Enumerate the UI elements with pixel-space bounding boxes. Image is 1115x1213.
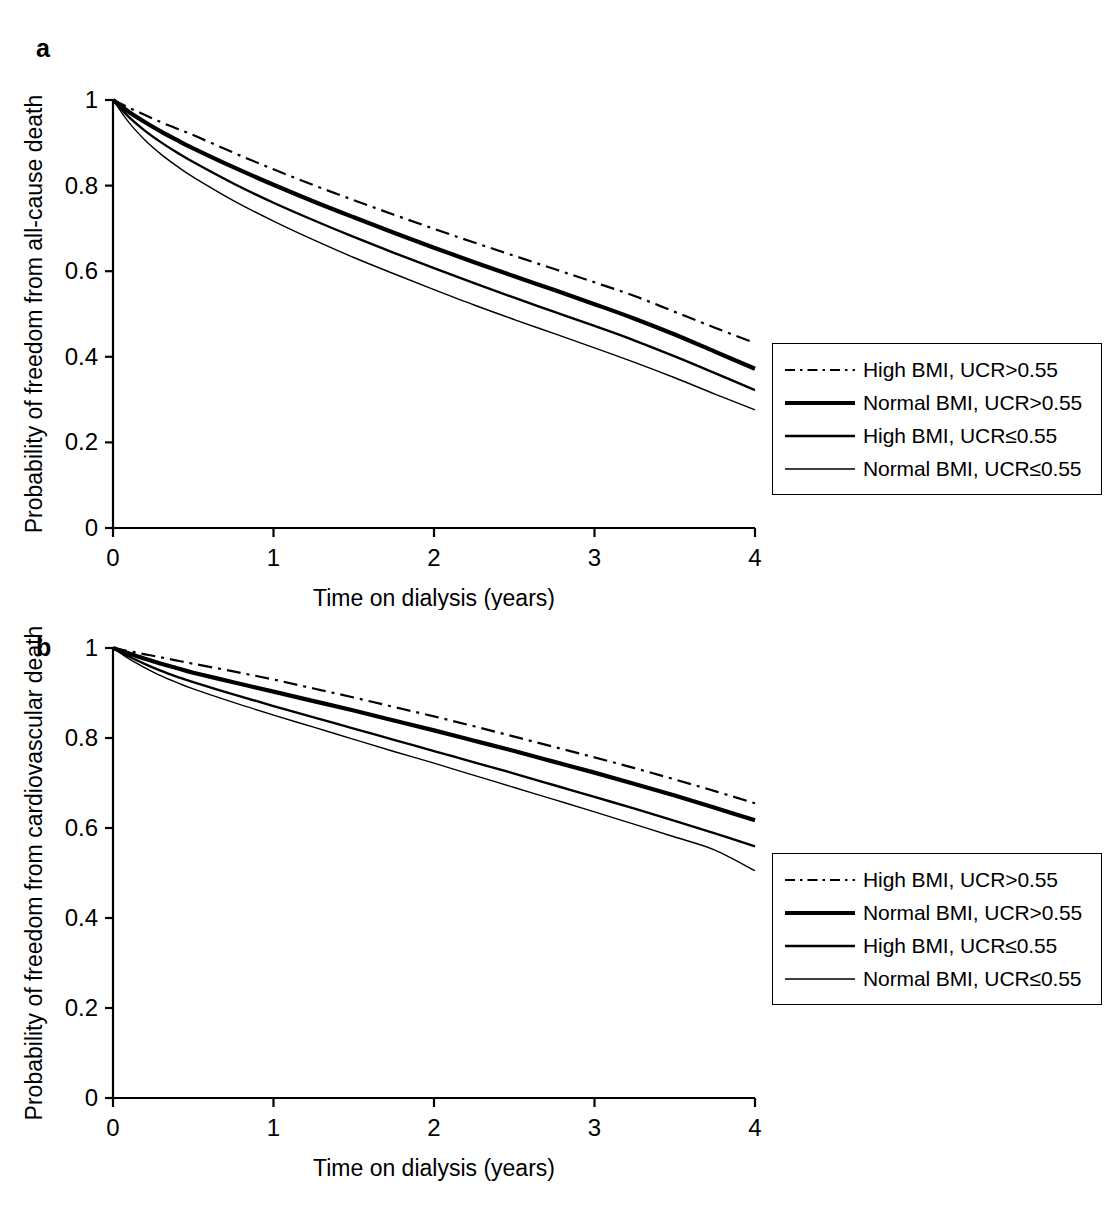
legend-row: High BMI, UCR≤0.55 [783,419,1089,452]
svg-text:0.6: 0.6 [65,257,98,284]
svg-text:0.4: 0.4 [65,343,98,370]
legend-line-swatch-icon [783,873,857,887]
legend-label: Normal BMI, UCR>0.55 [863,391,1082,415]
svg-text:1: 1 [85,634,98,661]
svg-text:Time on dialysis (years): Time on dialysis (years) [313,1155,555,1181]
curve-Normal BMI, UCR>0.55 [113,100,755,369]
curve-Normal BMI, UCR≤0.55 [113,648,755,871]
panel-a-legend: High BMI, UCR>0.55Normal BMI, UCR>0.55Hi… [772,343,1102,495]
legend-row: High BMI, UCR>0.55 [783,863,1089,896]
legend-label: Normal BMI, UCR≤0.55 [863,967,1081,991]
svg-text:0.4: 0.4 [65,904,98,931]
svg-text:3: 3 [588,544,601,571]
svg-text:Probability of freedom from ca: Probability of freedom from cardiovascul… [21,626,47,1121]
legend-row: High BMI, UCR≤0.55 [783,929,1089,962]
svg-text:Probability of freedom from al: Probability of freedom from all-cause de… [21,95,47,534]
legend-line-swatch-icon [783,939,857,953]
svg-text:1: 1 [267,1114,280,1141]
legend-row: Normal BMI, UCR≤0.55 [783,452,1089,485]
legend-row: Normal BMI, UCR≤0.55 [783,962,1089,995]
svg-text:0: 0 [106,544,119,571]
curve-Normal BMI, UCR>0.55 [113,648,755,820]
svg-text:1: 1 [85,86,98,113]
svg-text:4: 4 [748,1114,761,1141]
panel-a-plot: 00.20.40.60.8101234Time on dialysis (yea… [0,0,790,610]
legend-line-swatch-icon [783,363,857,377]
legend-label: Normal BMI, UCR>0.55 [863,901,1082,925]
legend-label: High BMI, UCR>0.55 [863,358,1058,382]
curve-Normal BMI, UCR≤0.55 [113,100,755,410]
svg-text:3: 3 [588,1114,601,1141]
legend-line-swatch-icon [783,462,857,476]
legend-line-swatch-icon [783,906,857,920]
svg-text:2: 2 [427,1114,440,1141]
legend-line-swatch-icon [783,429,857,443]
panel-b-legend: High BMI, UCR>0.55Normal BMI, UCR>0.55Hi… [772,853,1102,1005]
figure-root: a 00.20.40.60.8101234Time on dialysis (y… [0,0,1115,1213]
legend-label: High BMI, UCR≤0.55 [863,934,1057,958]
svg-text:0: 0 [106,1114,119,1141]
legend-label: High BMI, UCR>0.55 [863,868,1058,892]
curve-High BMI, UCR>0.55 [113,648,755,803]
panel-b-plot: 00.20.40.60.8101234Time on dialysis (yea… [0,603,790,1213]
panel-b: b 00.20.40.60.8101234Time on dialysis (y… [0,603,1115,1213]
svg-text:0: 0 [85,514,98,541]
svg-text:0.2: 0.2 [65,994,98,1021]
legend-line-swatch-icon [783,972,857,986]
panel-a: a 00.20.40.60.8101234Time on dialysis (y… [0,0,1115,610]
legend-row: Normal BMI, UCR>0.55 [783,896,1089,929]
svg-text:4: 4 [748,544,761,571]
legend-row: Normal BMI, UCR>0.55 [783,386,1089,419]
svg-text:0: 0 [85,1084,98,1111]
legend-line-swatch-icon [783,396,857,410]
svg-text:2: 2 [427,544,440,571]
svg-text:0.8: 0.8 [65,724,98,751]
legend-label: High BMI, UCR≤0.55 [863,424,1057,448]
curve-High BMI, UCR>0.55 [113,100,755,343]
svg-text:1: 1 [267,544,280,571]
svg-text:0.6: 0.6 [65,814,98,841]
legend-row: High BMI, UCR>0.55 [783,353,1089,386]
legend-label: Normal BMI, UCR≤0.55 [863,457,1081,481]
svg-text:0.8: 0.8 [65,172,98,199]
svg-text:0.2: 0.2 [65,428,98,455]
curve-High BMI, UCR≤0.55 [113,100,755,390]
